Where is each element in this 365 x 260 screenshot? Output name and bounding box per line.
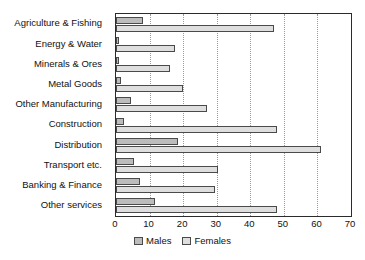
legend-item-females[interactable]: Females bbox=[182, 236, 230, 246]
bar-group bbox=[116, 75, 351, 95]
bar-males bbox=[116, 198, 155, 205]
bar-group bbox=[116, 155, 351, 175]
bar-males bbox=[116, 138, 178, 145]
bar-males bbox=[116, 37, 119, 44]
bar-males bbox=[116, 57, 119, 64]
bar-females bbox=[116, 25, 274, 32]
x-tick-label: 70 bbox=[345, 217, 356, 231]
bar-females bbox=[116, 126, 277, 133]
bar-males bbox=[116, 178, 140, 185]
bar-females bbox=[116, 65, 170, 72]
x-tick-label: 30 bbox=[210, 217, 221, 231]
category-label: Other Manufacturing bbox=[0, 94, 107, 114]
legend-label: Females bbox=[194, 236, 230, 246]
bar-group bbox=[116, 95, 351, 115]
bar-males bbox=[116, 158, 134, 165]
bar-males bbox=[116, 97, 131, 104]
legend-label: Males bbox=[146, 236, 171, 246]
bar-group bbox=[116, 176, 351, 196]
category-label: Agriculture & Fishing bbox=[0, 13, 107, 33]
bar-chart: Agriculture & FishingEnergy & WaterMiner… bbox=[0, 0, 365, 260]
category-label: Construction bbox=[0, 114, 107, 134]
bar-females bbox=[116, 166, 218, 173]
bar-group bbox=[116, 135, 351, 155]
category-label: Transport etc. bbox=[0, 154, 107, 174]
category-label: Metal Goods bbox=[0, 74, 107, 94]
bar-group bbox=[116, 34, 351, 54]
bar-males bbox=[116, 118, 124, 125]
category-label: Energy & Water bbox=[0, 33, 107, 53]
bar-females bbox=[116, 146, 321, 153]
category-label: Distribution bbox=[0, 134, 107, 154]
bar-group bbox=[116, 115, 351, 135]
x-tick-label: 10 bbox=[143, 217, 154, 231]
bar-females bbox=[116, 186, 215, 193]
category-label: Other services bbox=[0, 195, 107, 215]
x-tick-label: 40 bbox=[244, 217, 255, 231]
bar-males bbox=[116, 77, 121, 84]
chart-legend: MalesFemales bbox=[0, 236, 365, 246]
category-label: Banking & Finance bbox=[0, 175, 107, 195]
plot-inner bbox=[116, 14, 351, 216]
bar-males bbox=[116, 17, 143, 24]
x-tick-label: 20 bbox=[177, 217, 188, 231]
x-tick-label: 0 bbox=[112, 217, 117, 231]
plot-area bbox=[115, 13, 352, 217]
x-axis-tick-labels: 010203040506070 bbox=[115, 217, 350, 231]
bar-females bbox=[116, 206, 277, 213]
bar-group bbox=[116, 54, 351, 74]
bar-females bbox=[116, 45, 175, 52]
y-axis-category-labels: Agriculture & FishingEnergy & WaterMiner… bbox=[0, 13, 107, 215]
legend-swatch-icon bbox=[182, 237, 191, 245]
bar-females bbox=[116, 105, 207, 112]
bar-females bbox=[116, 85, 183, 92]
legend-swatch-icon bbox=[134, 237, 143, 245]
x-tick-label: 50 bbox=[278, 217, 289, 231]
legend-item-males[interactable]: Males bbox=[134, 236, 171, 246]
x-tick-label: 60 bbox=[311, 217, 322, 231]
bar-group bbox=[116, 14, 351, 34]
bar-group bbox=[116, 196, 351, 216]
category-label: Minerals & Ores bbox=[0, 53, 107, 73]
